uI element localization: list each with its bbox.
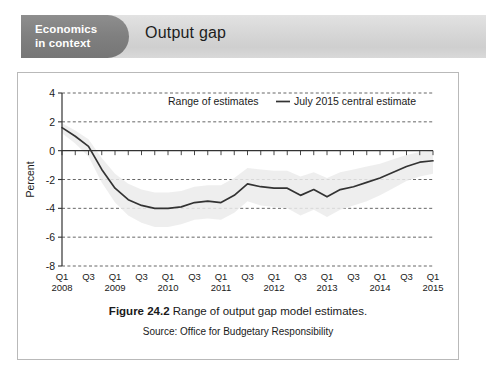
badge-line-1: Economics (35, 23, 97, 35)
svg-text:Q1: Q1 (374, 271, 387, 282)
svg-text:Q1: Q1 (56, 271, 69, 282)
svg-text:Q1: Q1 (268, 271, 281, 282)
figure-source: Source: Office for Budgetary Responsibil… (17, 326, 459, 337)
svg-text:-2: -2 (46, 174, 55, 186)
svg-text:Q1: Q1 (109, 271, 122, 282)
chart-y-axis-label: Percent (24, 161, 36, 197)
svg-text:Q3: Q3 (188, 271, 201, 282)
economics-in-context-badge: Economics in context (21, 15, 129, 58)
svg-text:Q1: Q1 (321, 271, 334, 282)
svg-text:-4: -4 (46, 202, 55, 214)
page-title: Output gap (145, 24, 226, 42)
svg-text:Q3: Q3 (294, 271, 307, 282)
svg-text:2011: 2011 (211, 282, 231, 293)
figure-caption-text: Range of output gap model estimates. (173, 305, 367, 317)
svg-text:2015: 2015 (422, 282, 443, 293)
svg-text:-6: -6 (46, 231, 55, 243)
svg-text:Range of estimates: Range of estimates (168, 95, 258, 107)
chart-range-band (62, 123, 433, 227)
svg-text:Q3: Q3 (347, 271, 360, 282)
svg-text:Q3: Q3 (135, 271, 148, 282)
svg-text:Q3: Q3 (400, 271, 413, 282)
svg-text:2014: 2014 (369, 282, 390, 293)
svg-text:2: 2 (49, 116, 55, 128)
chart-y-tick-labels: 420-2-4-6-8 (46, 87, 56, 272)
svg-text:Percent: Percent (24, 161, 36, 197)
chart-legend: Range of estimatesJuly 2015 central esti… (168, 95, 416, 107)
svg-text:Q1: Q1 (427, 271, 440, 282)
figure-caption: Figure 24.2 Range of output gap model es… (17, 305, 459, 317)
svg-text:4: 4 (49, 87, 55, 99)
svg-text:-8: -8 (46, 260, 55, 272)
svg-text:Q1: Q1 (215, 271, 228, 282)
svg-text:0: 0 (49, 145, 55, 157)
svg-text:July 2015 central estimate: July 2015 central estimate (294, 95, 416, 107)
chart-x-tick-labels: Q12008Q3Q12009Q3Q12010Q3Q12011Q3Q12012Q3… (51, 271, 443, 293)
svg-text:Q3: Q3 (241, 271, 254, 282)
svg-text:2013: 2013 (316, 282, 337, 293)
badge-line-2: in context (35, 37, 90, 49)
svg-text:2008: 2008 (51, 282, 72, 293)
svg-text:2012: 2012 (263, 282, 284, 293)
figure-number: Figure 24.2 (109, 305, 170, 317)
svg-text:Q1: Q1 (162, 271, 175, 282)
svg-text:Q3: Q3 (82, 271, 95, 282)
svg-text:2009: 2009 (104, 282, 125, 293)
svg-text:2010: 2010 (157, 282, 178, 293)
